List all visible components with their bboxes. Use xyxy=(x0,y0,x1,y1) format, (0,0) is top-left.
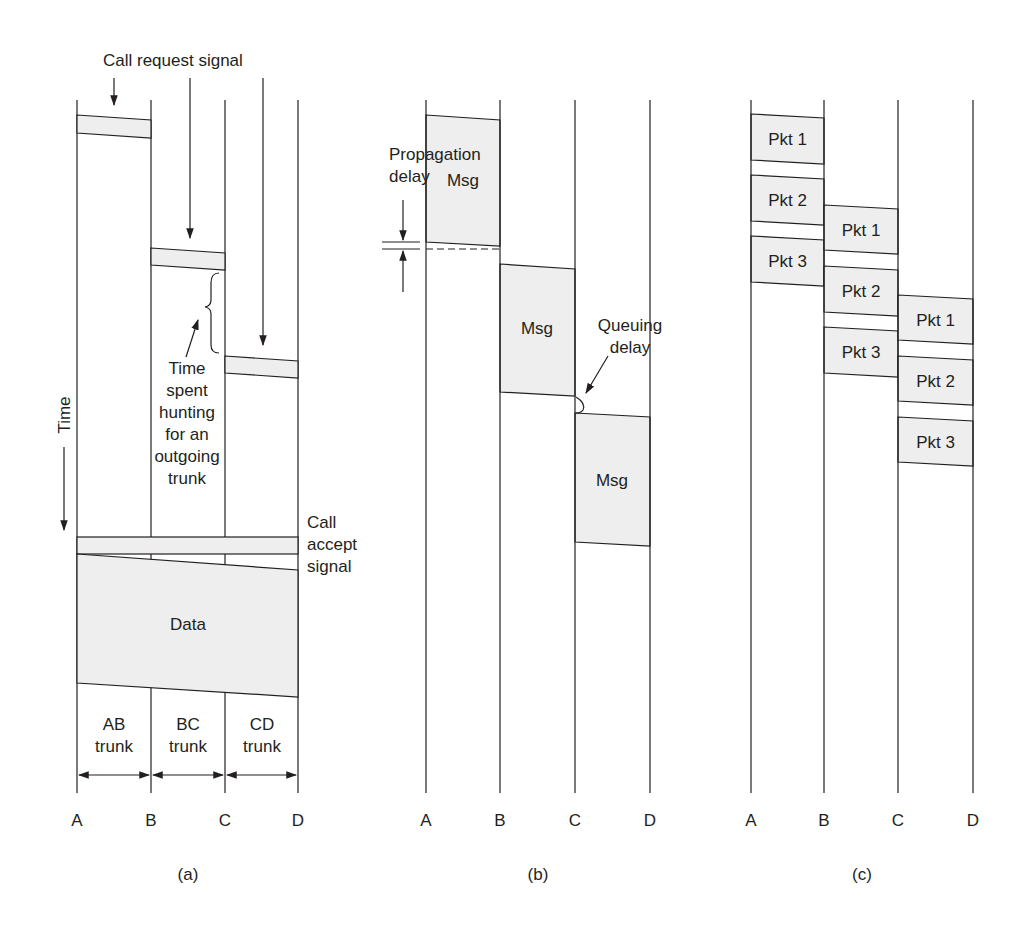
trunk-label: ABtrunk xyxy=(95,715,133,756)
trunk-spans: ABtrunkBCtrunkCDtrunk xyxy=(79,715,296,775)
node-label-d: D xyxy=(967,811,979,830)
arrow-diagonal-icon xyxy=(586,356,608,393)
call-accept-label: Callacceptsignal xyxy=(307,513,357,576)
queuing-delay-label-line: Queuing xyxy=(598,316,662,335)
node-label-b: B xyxy=(494,811,505,830)
node-label-a: A xyxy=(71,811,83,830)
call-request-label: Call request signal xyxy=(103,51,243,70)
switching-timing-diagram: ABCD Data Call request signalTimespenthu… xyxy=(0,0,1030,937)
queuing-arc-icon xyxy=(576,397,584,413)
packet-label: Pkt 1 xyxy=(768,130,807,149)
data-label: Data xyxy=(170,615,206,634)
packet-label: Pkt 3 xyxy=(842,343,881,362)
hunting-time-label-line: outgoing xyxy=(154,447,219,466)
trunk-label-line: BC xyxy=(176,715,200,734)
hunting-time-label-line: trunk xyxy=(168,469,206,488)
message-label: Msg xyxy=(447,171,479,190)
packet-label: Pkt 2 xyxy=(916,372,955,391)
panel-message-switching: MsgMsgMsg ABCD PropagationdelayQueuingde… xyxy=(382,100,662,884)
node-label-c: C xyxy=(892,811,904,830)
node-label-b: B xyxy=(818,811,829,830)
packet-boxes: Pkt 1Pkt 2Pkt 3Pkt 1Pkt 2Pkt 3Pkt 1Pkt 2… xyxy=(751,114,973,466)
panel-packet-switching: Pkt 1Pkt 2Pkt 3Pkt 1Pkt 2Pkt 3Pkt 1Pkt 2… xyxy=(745,100,979,884)
panel-circuit-switching: ABCD Data Call request signalTimespenthu… xyxy=(55,51,357,884)
call-request-signal-boxes xyxy=(77,115,298,378)
curly-brace-icon xyxy=(205,273,219,353)
trunk-label: CDtrunk xyxy=(243,715,281,756)
packet-label: Pkt 2 xyxy=(842,282,881,301)
call-accept-signal-band xyxy=(77,537,298,554)
packet-label: Pkt 3 xyxy=(768,252,807,271)
call-request-signal-box xyxy=(151,248,225,270)
node-labels: ABCD xyxy=(420,811,656,830)
message-label: Msg xyxy=(596,471,628,490)
time-axis-label: Time xyxy=(55,396,74,433)
propagation-delay-label-line: delay xyxy=(389,167,430,186)
call-accept-label-line: accept xyxy=(307,535,357,554)
trunk-label-line: CD xyxy=(250,715,275,734)
packet-label: Pkt 1 xyxy=(916,311,955,330)
node-labels: ABCD xyxy=(71,811,304,830)
node-label-c: C xyxy=(569,811,581,830)
trunk-label-line: AB xyxy=(103,715,126,734)
panel-caption: (b) xyxy=(528,865,549,884)
hunting-time-label-line: for an xyxy=(165,425,208,444)
call-accept-label-line: Call xyxy=(307,513,336,532)
trunk-label: BCtrunk xyxy=(169,715,207,756)
node-labels: ABCD xyxy=(745,811,979,830)
queuing-delay-label: Queuingdelay xyxy=(598,316,662,357)
node-label-d: D xyxy=(292,811,304,830)
panel-caption: (c) xyxy=(852,865,872,884)
hunting-time-label: Timespenthuntingfor anoutgoingtrunk xyxy=(154,359,219,488)
trunk-label-line: trunk xyxy=(243,737,281,756)
arrow-up-icon xyxy=(186,320,198,357)
call-accept-label-line: signal xyxy=(307,557,351,576)
panel-caption: (a) xyxy=(178,865,199,884)
packet-label: Pkt 3 xyxy=(916,433,955,452)
node-label-d: D xyxy=(644,811,656,830)
trunk-label-line: trunk xyxy=(169,737,207,756)
hunting-time-label-line: Time xyxy=(168,359,205,378)
propagation-delay-label-line: Propagation xyxy=(389,145,481,164)
node-label-a: A xyxy=(745,811,757,830)
call-request-signal-box xyxy=(77,115,151,138)
trunk-label-line: trunk xyxy=(95,737,133,756)
call-request-signal-box xyxy=(225,356,298,378)
hunting-time-label-line: spent xyxy=(166,381,208,400)
queuing-delay-label-line: delay xyxy=(610,338,651,357)
hunting-time-label-line: hunting xyxy=(159,403,215,422)
data-transfer-block: Data xyxy=(77,537,298,697)
packet-label: Pkt 2 xyxy=(768,191,807,210)
node-label-b: B xyxy=(145,811,156,830)
node-label-a: A xyxy=(420,811,432,830)
message-label: Msg xyxy=(521,319,553,338)
node-label-c: C xyxy=(219,811,231,830)
packet-label: Pkt 1 xyxy=(842,221,881,240)
